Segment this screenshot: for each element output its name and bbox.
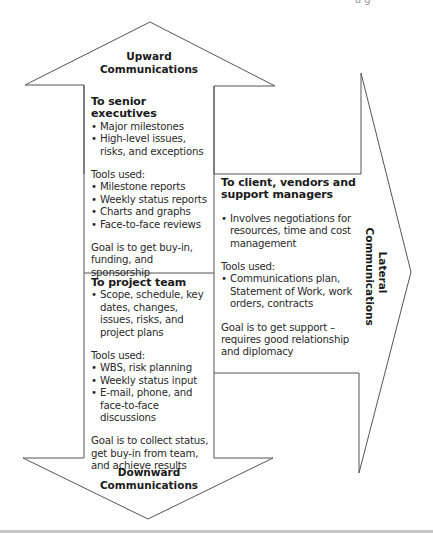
upward-goal: Goal is to get buy-in, funding, and spon…	[91, 242, 213, 279]
lateral-tools-label: Tools used:	[221, 261, 357, 273]
downward-items: Scope, schedule, key dates, changes, iss…	[91, 289, 213, 339]
upward-box: To senior executives Major milestones Hi…	[91, 96, 213, 279]
lateral-items: Involves negotiations for resources, tim…	[221, 213, 357, 250]
lateral-tool: Communications plan, Statement of Work, …	[221, 273, 357, 310]
downward-tools-label: Tools used:	[91, 350, 213, 362]
upward-tool: Face-to-face reviews	[91, 219, 213, 231]
lateral-label: Lateral Communications	[364, 228, 389, 318]
upward-heading: To senior executives	[91, 96, 213, 121]
downward-heading: To project team	[91, 277, 213, 289]
downward-tool: WBS, risk planning	[91, 362, 213, 374]
upward-item: Major milestones	[91, 121, 213, 133]
downward-label-line1: Downward	[84, 466, 214, 479]
downward-tool: E-mail, phone, and face-to-face discussi…	[91, 387, 213, 424]
upward-label-line2: Communications	[84, 63, 214, 76]
lateral-tools: Communications plan, Statement of Work, …	[221, 273, 357, 310]
upward-items: Major milestones High-level issues, risk…	[91, 121, 213, 158]
upward-tool: Charts and graphs	[91, 206, 213, 218]
lateral-label-line2: Communications	[364, 228, 377, 318]
upward-tools-label: Tools used:	[91, 169, 213, 181]
lateral-box: To client, vendors and support managers …	[221, 177, 357, 359]
lateral-item: Involves negotiations for resources, tim…	[221, 213, 357, 250]
downward-item: Scope, schedule, key dates, changes, iss…	[91, 289, 213, 339]
downward-box: To project team Scope, schedule, key dat…	[91, 277, 213, 473]
upward-label-line1: Upward	[84, 50, 214, 63]
lateral-goal: Goal is to get support – requires good r…	[221, 322, 357, 359]
upward-tools: Milestone reports Weekly status reports …	[91, 181, 213, 231]
downward-label: Downward Communications	[84, 466, 214, 491]
upward-item: High-level issues, risks, and exceptions	[91, 133, 213, 158]
downward-label-line2: Communications	[84, 479, 214, 492]
lateral-heading: To client, vendors and support managers	[221, 177, 357, 202]
downward-tool: Weekly status input	[91, 375, 213, 387]
upward-tool: Milestone reports	[91, 181, 213, 193]
upward-label: Upward Communications	[84, 50, 214, 75]
cropped-text-fragment: a g	[355, 0, 371, 5]
lateral-label-line1: Lateral	[376, 228, 389, 318]
downward-tools: WBS, risk planning Weekly status input E…	[91, 362, 213, 424]
upward-tool: Weekly status reports	[91, 194, 213, 206]
bottom-divider-bar	[0, 530, 433, 533]
